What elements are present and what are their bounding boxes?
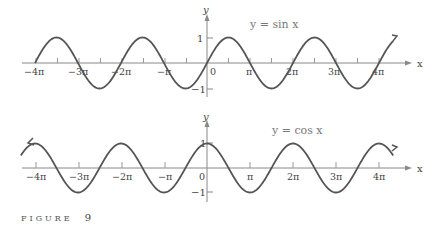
cos-graph: x y 1 −1 −4π −3π −2π −π 0 π 2π 3π 4π y =… [21,111,423,202]
cos-ytick-label-neg1: −1 [191,187,206,198]
cos-x-axis-arrow-icon [405,166,412,171]
sin-x-axis-label: x [417,58,423,69]
figure-caption-number: 9 [85,212,91,223]
figure-caption: FIGURE9 [21,212,91,223]
figure-canvas: x y 1 −1 −4π −3π −2π −π 0 π 2π 3π 4π [0,0,442,229]
cos-x-axis-label: x [417,163,423,174]
sin-ytick-label-1: 1 [197,33,203,44]
cos-chart-title: y = cos x [271,124,323,137]
cos-y-axis-label: y [202,111,209,122]
cos-xtick-label-neg4pi: −4π [26,171,46,182]
sin-chart-title: y = sin x [249,18,299,31]
sin-x-axis-arrow-icon [405,61,412,66]
sin-curve-arrow-icon [392,35,397,41]
cos-xtick-label-negpi: −π [158,171,172,182]
sin-xtick-label-pi: π [246,66,252,77]
cos-curve-left-arrow-icon [28,138,34,145]
figure-caption-label: FIGURE [21,214,73,223]
sin-y-axis-label: y [202,4,209,15]
sin-xtick-label-0: 0 [210,66,216,77]
cos-xtick-label-neg3pi: −3π [69,171,89,182]
cos-xtick-label-2pi: 2π [287,171,299,182]
cos-curve-right-arrow-icon [392,145,397,151]
sin-y-axis-arrow-icon [205,14,210,21]
sin-graph: x y 1 −1 −4π −3π −2π −π 0 π 2π 3π 4π [22,4,423,97]
cos-xtick-label-pi: π [247,171,253,182]
cos-xtick-label-4pi: 4π [373,171,385,182]
cos-xtick-label-3pi: 3π [330,171,342,182]
sin-xtick-label-neg4pi: −4π [24,66,44,77]
cos-xtick-label-0: 0 [199,171,205,182]
cos-xtick-label-neg2pi: −2π [112,171,132,182]
